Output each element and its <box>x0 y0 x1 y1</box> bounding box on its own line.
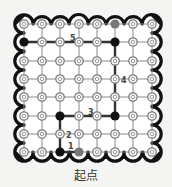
node-empty <box>38 20 46 28</box>
scalloped-border <box>15 14 161 161</box>
node-empty <box>148 148 156 156</box>
node-empty <box>75 20 83 28</box>
node-empty <box>93 93 101 101</box>
node-empty <box>38 57 46 65</box>
node-gray <box>74 147 83 156</box>
node-empty <box>93 148 101 156</box>
node-empty <box>111 130 119 138</box>
node-empty <box>20 148 28 156</box>
node-empty <box>93 20 101 28</box>
node-empty <box>56 93 64 101</box>
node-empty <box>20 93 28 101</box>
node-empty <box>111 148 119 156</box>
node-black <box>19 37 28 46</box>
node-black <box>55 147 64 156</box>
node-empty <box>75 38 83 46</box>
node-empty <box>75 93 83 101</box>
node-empty <box>20 57 28 65</box>
step-label: 5 <box>70 34 76 43</box>
node-empty <box>56 20 64 28</box>
node-empty <box>75 75 83 83</box>
node-empty <box>93 57 101 65</box>
node-empty <box>129 57 137 65</box>
node-empty <box>38 75 46 83</box>
node-empty <box>148 57 156 65</box>
node-empty <box>38 148 46 156</box>
node-black <box>55 111 64 120</box>
node-empty <box>148 38 156 46</box>
node-empty <box>56 130 64 138</box>
node-empty <box>129 38 137 46</box>
node-empty <box>56 57 64 65</box>
node-empty <box>20 75 28 83</box>
node-black <box>110 111 119 120</box>
step-label: 4 <box>121 76 127 85</box>
node-empty <box>148 75 156 83</box>
node-empty <box>148 112 156 120</box>
node-empty <box>56 75 64 83</box>
node-black <box>110 37 119 46</box>
node-empty <box>129 20 137 28</box>
node-empty <box>129 75 137 83</box>
node-empty <box>93 75 101 83</box>
puzzle-board: 54321 <box>0 0 172 172</box>
node-empty <box>20 112 28 120</box>
node-empty <box>93 38 101 46</box>
node-empty <box>111 93 119 101</box>
node-empty <box>111 57 119 65</box>
step-label: 1 <box>68 142 74 151</box>
node-empty <box>20 130 28 138</box>
node-empty <box>75 130 83 138</box>
node-empty <box>129 93 137 101</box>
node-empty <box>93 112 101 120</box>
node-gray <box>110 19 119 28</box>
node-empty <box>148 93 156 101</box>
node-empty <box>38 38 46 46</box>
node-empty <box>38 112 46 120</box>
node-empty <box>20 20 28 28</box>
node-empty <box>129 130 137 138</box>
node-empty <box>129 148 137 156</box>
node-empty <box>75 57 83 65</box>
node-empty <box>38 130 46 138</box>
step-label: 3 <box>88 108 94 117</box>
node-empty <box>148 130 156 138</box>
node-empty <box>129 112 137 120</box>
node-empty <box>148 20 156 28</box>
node-empty <box>93 130 101 138</box>
node-empty <box>75 112 83 120</box>
step-label: 2 <box>66 131 72 140</box>
start-point-caption: 起点 <box>0 166 172 183</box>
node-empty <box>56 38 64 46</box>
node-empty <box>111 75 119 83</box>
node-empty <box>38 93 46 101</box>
